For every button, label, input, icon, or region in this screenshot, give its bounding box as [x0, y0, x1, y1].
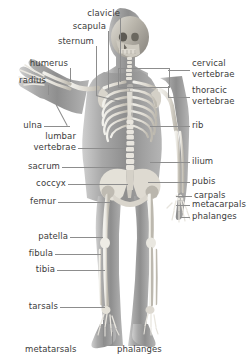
patella-bone-right — [146, 238, 156, 249]
label-coccyx: coccyx — [10, 179, 66, 188]
label-ulna: ulna — [4, 121, 42, 130]
label-thoracic: thoracic — [192, 86, 250, 95]
label-scapula: scapula — [30, 22, 106, 31]
label-ilium: ilium — [192, 157, 232, 166]
vertebrae-callout-box — [118, 68, 170, 88]
label-thoracic-vertebrae: vertebrae — [192, 97, 251, 106]
fibula-bone-left — [100, 250, 101, 304]
label-humerus: humerus — [0, 59, 68, 68]
leader-patella-h — [70, 237, 103, 238]
patella-bone-left — [100, 238, 110, 249]
leader-tibia-h — [57, 270, 105, 271]
label-tibia: tibia — [16, 265, 55, 274]
label-cervical: cervical — [192, 59, 250, 68]
fibula-bone-right — [156, 250, 157, 304]
label-radius: radius — [0, 76, 46, 85]
label-tarsals: tarsals — [8, 302, 58, 311]
label-cervical-vertebrae: vertebrae — [192, 70, 251, 79]
leader-fibula-h — [55, 254, 101, 255]
skull — [111, 16, 149, 58]
label-clavicle: clavicle — [40, 9, 120, 18]
leader-femur-h — [58, 202, 112, 203]
leader-scapula-v — [108, 31, 109, 90]
leader-humerus-v — [70, 68, 71, 82]
leader-sacrum-h — [62, 167, 126, 168]
femur-bone-right — [150, 196, 151, 240]
label-metacarpals: metacarpals — [192, 200, 251, 209]
leader-lumbar-h — [78, 148, 126, 149]
label-phalanges-foot: phalanges — [117, 345, 181, 354]
leader-rib-h — [150, 126, 190, 127]
leader-carpals-h — [176, 196, 192, 197]
leader-metatarsals-v — [103, 320, 104, 345]
leader-radius-v — [48, 85, 49, 95]
leader-phalanges-hand-h — [180, 217, 190, 218]
label-pubis: pubis — [192, 177, 232, 186]
leader-thoracic-h — [168, 97, 190, 98]
label-sternum: sternum — [18, 37, 94, 46]
label-lumbar-vertebrae: vertebrae — [0, 143, 76, 152]
leader-pubis-h — [148, 182, 190, 183]
tibia-bone-right — [151, 249, 152, 305]
label-lumbar: lumbar — [4, 132, 76, 141]
leader-ilium-h — [150, 162, 190, 163]
skeleton-diagram: clavicle scapula sternum humerus radius … — [0, 0, 251, 363]
leader-metacarpals-h — [176, 205, 190, 206]
leader-cervical-h — [168, 70, 190, 71]
leader-tarsals-h — [60, 307, 105, 308]
leader-coccyx-h — [68, 184, 128, 185]
leader-sternum-v — [96, 46, 97, 96]
tibia-bone-left — [105, 249, 107, 305]
label-rib: rib — [192, 121, 222, 130]
label-fibula: fibula — [8, 249, 53, 258]
leader-thoracic-v — [168, 86, 169, 98]
label-metatarsals: metatarsals — [25, 345, 101, 354]
leader-phalanges-foot-v — [112, 332, 113, 345]
sacrum-bone — [126, 170, 134, 190]
label-sacrum: sacrum — [4, 162, 60, 171]
label-patella: patella — [14, 232, 68, 241]
label-femur: femur — [6, 197, 56, 206]
label-phalanges-hand: phalanges — [192, 212, 248, 221]
